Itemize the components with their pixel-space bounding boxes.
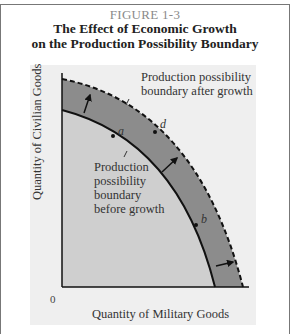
point-a-label: a [118, 124, 124, 139]
x-axis-label: Quantity of Military Goods [92, 307, 229, 322]
annotation-text: possibility [94, 174, 164, 188]
annotation-after-growth: Production possibility boundary after gr… [141, 70, 253, 98]
annotation-text: boundary [94, 188, 164, 202]
origin-label: 0 [50, 293, 56, 305]
annotation-before-growth: Production possibility boundary before g… [94, 160, 164, 216]
annotation-text: boundary after growth [141, 84, 253, 98]
point-d-label: d [160, 117, 166, 132]
y-axis-label: Quantity of Civilian Goods [30, 64, 45, 200]
annotation-text: Production [94, 160, 164, 174]
point-d [153, 130, 157, 134]
point-a [111, 134, 115, 138]
point-b [194, 223, 198, 227]
annotation-text: Production possibility [141, 70, 253, 84]
point-b-label: b [201, 212, 207, 227]
annotation-text: before growth [94, 202, 164, 216]
